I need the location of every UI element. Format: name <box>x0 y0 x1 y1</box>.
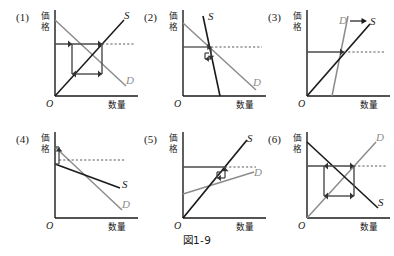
panel-5-x-label: 数量 <box>236 221 254 232</box>
panel-3-supply-curve <box>307 24 370 96</box>
panel-4-x-label: 数量 <box>108 221 126 232</box>
panel-2-x-label: 数量 <box>236 99 254 110</box>
panel-3: (3) 価 格 S D O 数量 <box>266 4 394 116</box>
panel-2-y-label-2: 格 <box>169 21 178 32</box>
panel-1-origin-label: O <box>46 98 53 109</box>
panel-3-number: (3) <box>268 11 281 24</box>
panel-1-y-label-2: 格 <box>41 21 50 32</box>
panel-1: (1) 価 格 <box>14 4 142 116</box>
panel-2: (2) 価 格 S D <box>142 4 270 116</box>
panel-1-y-label-1: 価 <box>41 10 50 21</box>
panel-5: (5) 価 格 S D O <box>142 126 270 238</box>
panel-6-x-label: 数量 <box>360 221 378 232</box>
panel-6-origin-label: O <box>298 220 305 231</box>
panel-3-x-label: 数量 <box>360 99 378 110</box>
panel-1-supply-curve <box>55 20 124 96</box>
panel-4-demand-label: D <box>121 198 130 210</box>
panel-4-supply-label: S <box>122 178 128 190</box>
panel-1-demand-label: D <box>125 74 134 86</box>
panel-2-number: (2) <box>144 11 157 24</box>
panel-3-y-label-2: 格 <box>293 21 302 32</box>
panel-3-demand-curve <box>332 16 348 96</box>
panel-6: (6) 価 格 D S <box>266 126 394 238</box>
panel-6-y-label-2: 格 <box>293 143 302 154</box>
panel-3-shift-arrow-icon <box>362 18 368 24</box>
panel-4: (4) 価 格 S D O 数量 <box>14 126 142 238</box>
panel-3-y-label-1: 価 <box>293 10 302 21</box>
panel-1-supply-label: S <box>124 9 130 21</box>
panel-3-demand-label: D <box>338 14 347 26</box>
panel-5-origin-label: O <box>174 220 181 231</box>
panel-4-demand-curve <box>55 147 122 210</box>
panel-6-y-label-1: 価 <box>293 132 302 143</box>
panel-4-origin-label: O <box>46 220 53 231</box>
panel-1-x-label: 数量 <box>108 99 126 110</box>
panel-4-supply-curve <box>55 164 120 188</box>
panel-2-origin-label: O <box>174 98 181 109</box>
panel-6-number: (6) <box>268 133 281 146</box>
panel-6-supply-label: S <box>378 196 384 208</box>
panel-4-number: (4) <box>16 133 29 146</box>
panel-2-demand-label: D <box>252 76 261 88</box>
panel-2-supply-label: S <box>208 10 214 22</box>
figure-container: (1) 価 格 <box>0 0 394 256</box>
panel-2-demand-curve <box>183 23 256 90</box>
figure-caption: 図1-9 <box>0 232 394 247</box>
panel-5-y-label-1: 価 <box>169 132 178 143</box>
panel-5-number: (5) <box>144 133 157 146</box>
panel-3-origin-label: O <box>298 98 305 109</box>
panel-4-y-label-2: 格 <box>41 143 50 154</box>
panel-6-demand-curve <box>307 142 376 218</box>
panel-3-supply-label: S <box>370 15 376 27</box>
panel-6-demand-label: D <box>375 131 384 143</box>
panel-5-demand-label: D <box>253 166 262 178</box>
panel-2-y-label-1: 価 <box>169 10 178 21</box>
panel-2-cobweb <box>183 47 211 59</box>
panel-4-y-label-1: 価 <box>41 132 50 143</box>
panel-1-number: (1) <box>16 11 29 24</box>
panel-5-supply-curve <box>183 140 247 218</box>
panel-5-y-label-2: 格 <box>169 143 178 154</box>
panel-5-supply-label: S <box>247 132 253 144</box>
